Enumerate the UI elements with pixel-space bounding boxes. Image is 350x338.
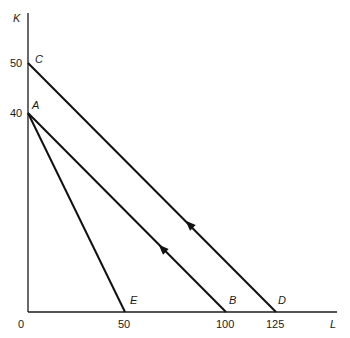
y-tick-40: 40 (10, 107, 22, 119)
x-tick-125: 125 (266, 318, 284, 330)
origin-label: 0 (18, 318, 24, 330)
point-label-e: E (130, 294, 138, 306)
line-ae (28, 113, 125, 312)
x-tick-100: 100 (216, 318, 234, 330)
line-ab (28, 113, 226, 312)
x-axis-label: L (330, 318, 336, 330)
point-label-d: D (278, 294, 286, 306)
y-tick-50: 50 (10, 57, 22, 69)
x-tick-50: 50 (118, 318, 130, 330)
point-label-a: A (31, 99, 39, 111)
point-label-b: B (229, 294, 236, 306)
y-axis-label: K (13, 12, 21, 24)
point-label-c: C (35, 53, 43, 65)
isocost-diagram: K L 0 50 100 125 50 40 C A E B D (0, 0, 350, 338)
